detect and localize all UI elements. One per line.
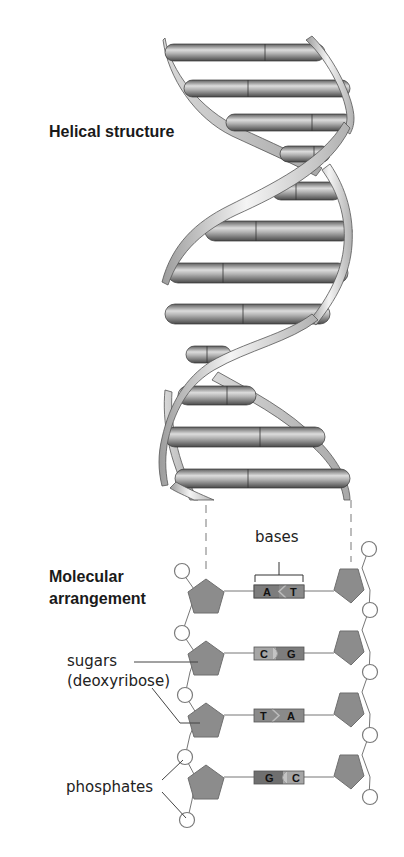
base-letter: A: [287, 710, 295, 722]
base-pair-row: [224, 771, 334, 784]
base-letter: G: [265, 772, 274, 784]
phosphate: [363, 665, 378, 680]
helix-rung: [168, 263, 348, 283]
sugar-pentagon: [188, 579, 224, 613]
phosphate: [180, 813, 195, 828]
phosphate: [363, 728, 378, 743]
sugars-label: sugars: [67, 651, 117, 671]
left-backbone: [175, 564, 225, 828]
phosphates-label: phosphates: [66, 777, 153, 797]
helical-structure-title: Helical structure: [49, 121, 174, 143]
helix-rung: [175, 469, 350, 488]
sugar-pentagon: [188, 641, 224, 675]
bases-label: bases: [255, 527, 299, 547]
phosphate: [178, 688, 193, 703]
bases-bracket: [255, 562, 303, 582]
helix-rung: [165, 44, 325, 61]
sugar-pentagon: [334, 631, 364, 665]
sugar-pentagon: [334, 693, 364, 727]
helix-rung: [184, 80, 350, 97]
base-letter: T: [260, 710, 267, 722]
base-letter: G: [287, 648, 296, 660]
base-letter: C: [292, 772, 300, 784]
helix-rung: [205, 221, 352, 241]
phosphate: [175, 564, 190, 579]
base-pair-row: [224, 647, 334, 660]
helix-base-pairs: [165, 44, 353, 488]
right-backbone: [333, 542, 378, 805]
base-letter: T: [290, 586, 297, 598]
phosphate: [363, 603, 378, 618]
phosphate: [178, 750, 193, 765]
dna-diagram: A T C G T A G C Helical structure Molecu…: [0, 0, 404, 857]
base-pair-row: [224, 709, 334, 722]
sugar-pentagon: [188, 765, 224, 799]
helix-rung: [165, 427, 325, 447]
molecular-base-pairs: A T C G T A G C: [224, 585, 334, 784]
phosphate: [175, 626, 190, 641]
sugar-pentagon: [334, 755, 364, 789]
molecular-arrangement-title-line1: Molecular: [49, 566, 124, 588]
phosphate: [363, 790, 378, 805]
base-letter: C: [260, 648, 268, 660]
deoxyribose-label: (deoxyribose): [67, 671, 170, 691]
base-letter: A: [263, 586, 271, 598]
molecular-arrangement-title-line2: arrangement: [49, 588, 146, 610]
helix-rung: [226, 114, 353, 131]
base-pair-row: [224, 585, 334, 598]
phosphate: [362, 542, 377, 557]
